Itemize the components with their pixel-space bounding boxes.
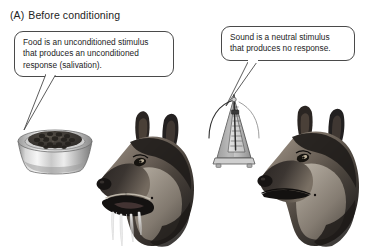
speech-bubble-sound: Sound is a neutral stimulus that produce… [221,26,355,61]
speech-bubble-food-line-2: that produces an unconditioned [23,48,166,59]
dog-head-neutral-icon [252,104,367,249]
speech-bubble-sound-line-2: that produces no response. [230,43,347,54]
panel-title-text: Before conditioning [28,9,120,21]
speech-bubble-sound-line-1: Sound is a neutral stimulus [230,32,347,43]
figure-panel: (A)Before conditioning Food is an uncond… [0,0,367,249]
speech-bubble-food-line-3: response (salivation). [23,60,166,71]
dog-head-salivating-icon [92,108,200,249]
speech-bubble-food: Food is an unconditioned stimulus that p… [14,31,174,77]
food-bowl-icon [12,127,98,175]
speech-bubble-food-line-1: Food is an unconditioned stimulus [23,37,166,48]
page-title: (A)Before conditioning [10,9,120,21]
panel-label: (A) [10,9,24,21]
speech-bubble-food-tail [20,74,100,134]
